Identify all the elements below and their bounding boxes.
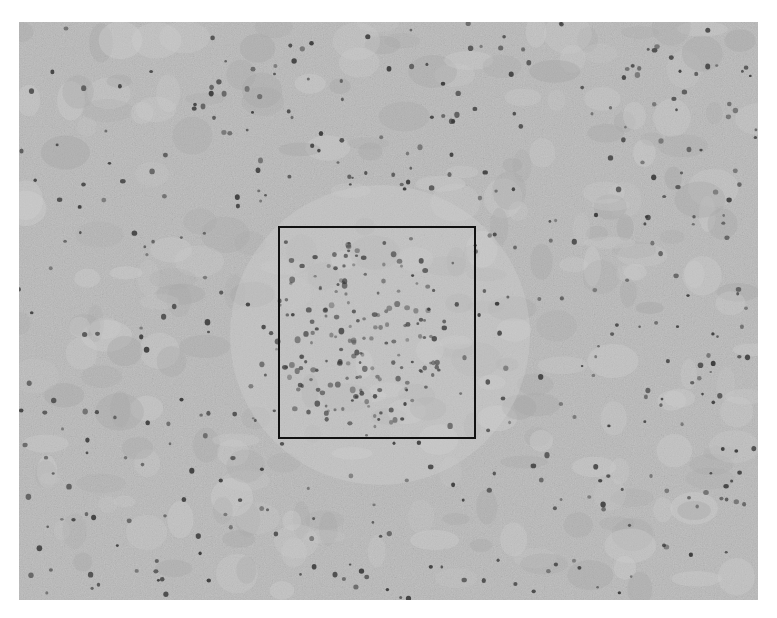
figure-page (0, 0, 777, 618)
region-of-interest-box (278, 226, 476, 439)
